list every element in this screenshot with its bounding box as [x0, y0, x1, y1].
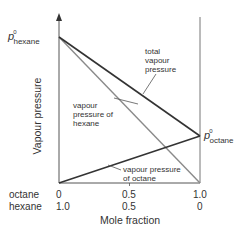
subscript: octane — [209, 136, 233, 145]
superscript: 0 — [209, 128, 212, 134]
superscript: 0 — [13, 29, 16, 35]
x-tick-octane-1: 1.0 — [193, 189, 207, 200]
y-axis-title: Vapour pressure — [31, 71, 43, 161]
label-line: pressure — [145, 65, 176, 74]
total-leader-line — [143, 74, 156, 94]
label-line: vapour — [73, 101, 113, 110]
x-row-octane-label: octane — [9, 189, 39, 200]
x-tick-octane-05: 0.5 — [122, 189, 136, 200]
subscript: hexane — [13, 37, 39, 46]
octane-pressure-label: vapour pressure of octane — [123, 165, 181, 183]
x-tick-hexane-1: 1.0 — [56, 201, 70, 212]
total-pressure-label: total vapour pressure — [145, 47, 176, 74]
label-line: of octane — [123, 174, 181, 183]
label-line: hexane — [73, 119, 113, 128]
x-row-hexane-label: hexane — [9, 201, 42, 212]
label-line: total — [145, 47, 176, 56]
label-line: vapour pressure — [123, 165, 181, 174]
x-axis-title: Mole fraction — [100, 214, 160, 226]
label-line: vapour — [145, 56, 176, 65]
hexane-leader-line — [114, 98, 138, 104]
p-octane-label: p0octane — [204, 129, 234, 144]
x-tick-hexane-05: 0.5 — [122, 201, 136, 212]
y-axis-arrow-icon — [56, 13, 62, 21]
label-line: pressure of — [73, 110, 113, 119]
x-tick-hexane-0: 0 — [197, 201, 203, 212]
hexane-pressure-label: vapour pressure of hexane — [73, 101, 113, 128]
octane-leader-line — [108, 165, 121, 170]
x-tick-octane-0: 0 — [56, 189, 62, 200]
p-hexane-label: p0hexane — [8, 30, 40, 45]
